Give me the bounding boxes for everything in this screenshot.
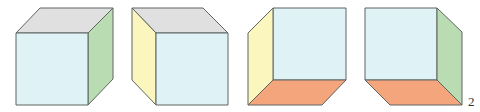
cube-1: [16, 8, 113, 105]
cube-4: [365, 8, 462, 105]
cube-views-diagram: 2: [0, 0, 480, 112]
cube-3: [248, 8, 346, 105]
cube-3-back-face: [273, 8, 346, 80]
cube-2-front-face: [156, 33, 228, 105]
cube-1-front-face: [16, 33, 88, 105]
figure-label: 2: [468, 94, 475, 109]
cube-4-back-face: [365, 8, 437, 80]
cube-2: [132, 8, 228, 105]
